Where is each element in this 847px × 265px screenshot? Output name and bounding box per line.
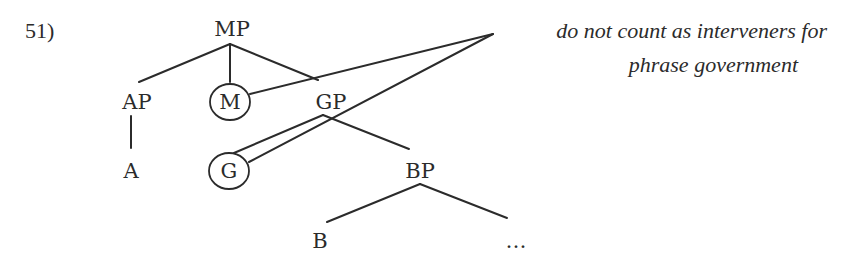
edge-bp-ellipsis bbox=[420, 184, 507, 218]
node-m: M bbox=[219, 90, 241, 114]
syntax-tree-diagram: 51) MP AP M GP A G BP B … do not count a… bbox=[0, 0, 847, 265]
edge-gp-bp bbox=[323, 115, 409, 149]
node-ellipsis: … bbox=[506, 229, 527, 253]
pointer-to-m bbox=[250, 34, 493, 94]
tree-edges bbox=[131, 44, 507, 222]
node-bp: BP bbox=[405, 159, 435, 183]
edge-mp-gp bbox=[230, 44, 318, 80]
edge-bp-b bbox=[327, 184, 420, 222]
node-ap: AP bbox=[121, 90, 151, 114]
node-b: B bbox=[312, 229, 327, 253]
annotation-line-1: do not count as interveners for bbox=[556, 18, 827, 43]
example-number: 51) bbox=[25, 18, 54, 43]
node-g: G bbox=[221, 159, 238, 183]
annotation-pointers bbox=[249, 34, 493, 162]
annotation-line-2: phrase government bbox=[627, 52, 799, 77]
node-gp: GP bbox=[316, 90, 347, 114]
node-mp: MP bbox=[214, 17, 250, 41]
edge-mp-ap bbox=[139, 44, 230, 82]
node-a: A bbox=[122, 159, 139, 183]
pointer-to-g bbox=[249, 34, 493, 162]
